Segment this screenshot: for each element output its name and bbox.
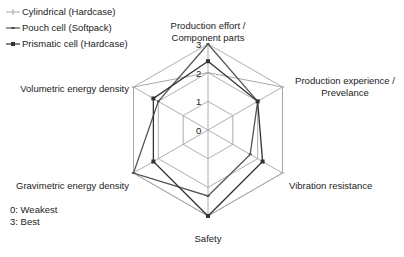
square-marker-icon [206, 59, 210, 63]
dash-marker-icon [249, 153, 252, 155]
legend-label: Pouch cell (Softpack) [22, 20, 112, 36]
dash-marker-icon [157, 100, 160, 102]
dash-marker-icon [207, 43, 210, 45]
square-marker-icon [151, 96, 155, 100]
legend-item-pouch: Pouch cell (Softpack) [6, 20, 128, 36]
radar-axis-labels: Production effort /Component partsProduc… [16, 20, 395, 244]
tick-label: 1 [196, 96, 201, 107]
scale-note-weakest: 0: Weakest [10, 204, 57, 216]
axis-label: Safety [195, 233, 222, 244]
square-marker-icon [261, 160, 265, 164]
legend: Cylindrical (Hardcase) Pouch cell (Softp… [6, 4, 128, 52]
grid-spoke [208, 87, 282, 130]
square-marker-icon [151, 160, 155, 164]
axis-label: Vibration resistance [289, 180, 372, 191]
axis-label: Production experience / [295, 75, 395, 86]
square-marker-icon [206, 214, 210, 218]
grid-spoke [134, 87, 208, 130]
scale-note-best: 3: Best [10, 216, 57, 228]
scale-note: 0: Weakest 3: Best [10, 204, 57, 228]
axis-label: Gravimetric energy density [16, 180, 129, 191]
grid-spoke [208, 130, 282, 173]
axis-label: Component parts [172, 32, 245, 43]
tick-label: 2 [196, 68, 201, 79]
legend-item-cylindrical: Cylindrical (Hardcase) [6, 4, 128, 20]
tick-label: 0 [196, 125, 201, 136]
legend-label: Prismatic cell (Hardcase) [22, 36, 128, 52]
axis-label: Production effort / [171, 20, 246, 31]
legend-swatch-dash-icon [6, 23, 20, 33]
legend-item-prismatic: Prismatic cell (Hardcase) [6, 36, 128, 52]
legend-swatch-plus-icon [6, 7, 20, 17]
axis-label: Volumetric energy density [20, 83, 129, 94]
square-marker-icon [256, 99, 260, 103]
grid-spoke [134, 130, 208, 173]
legend-swatch-square-icon [6, 39, 20, 49]
dash-marker-icon [207, 195, 210, 197]
dash-marker-icon [132, 172, 135, 174]
axis-label: Prevelance [321, 87, 369, 98]
legend-label: Cylindrical (Hardcase) [22, 4, 115, 20]
